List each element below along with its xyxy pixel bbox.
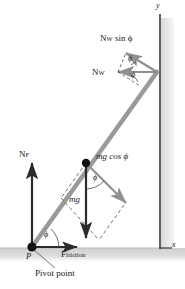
dashed-mgcos-extension [99,205,124,240]
ladder-midpoint-dot [82,159,90,167]
angle-label-midpoint: ϕ [93,174,97,182]
pivot-point-caption: Pivot point [35,269,75,278]
ladder-beam [32,72,157,247]
friction-label: Ffriction [61,250,85,259]
angle-label-wall-lower: ϕ [131,71,135,79]
normal-wall-subscript: W [99,69,105,76]
angle-arc-pivot [51,229,59,247]
normal-floor-label: NF [19,150,29,159]
mg-label: mg [69,195,80,204]
y-axis-label: y [156,2,160,10]
normal-floor-subscript: F [26,151,30,158]
dashed-parallelogram-base [61,198,99,240]
mg-cos-phi-label: mg cos ϕ [96,152,128,161]
wall-surface [161,18,174,248]
angle-label-wall-upper: ϕ [128,55,132,63]
mg-cos-phi-vector [86,163,126,203]
friction-subscript: friction [66,251,85,258]
angle-arc-midpoint [86,181,104,189]
dashed-wall-closure-upper [118,53,126,72]
pivot-marker-label: P [26,252,31,261]
x-axis-label: x [172,241,176,249]
normal-wall-sin-label: NW sin ϕ [100,34,132,43]
diagram-canvas [0,0,185,289]
normal-wall-label: NW [92,68,105,77]
force-diagram-figure: NW sin ϕ NW NF mg cos ϕ mg Ffriction P P… [0,0,185,289]
normal-wall-sin-rest: sin ϕ [113,33,133,43]
angle-label-pivot: ϕ [44,231,48,239]
